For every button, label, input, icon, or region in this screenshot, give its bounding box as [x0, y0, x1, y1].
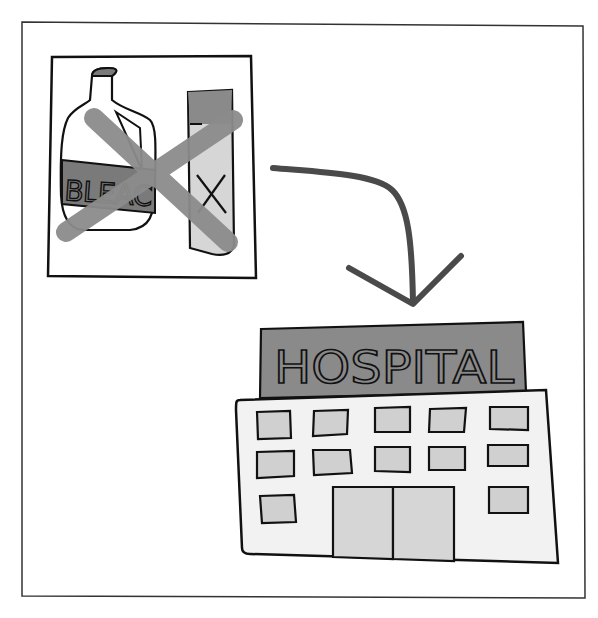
- hospital-sign-text: HOSPITAL: [274, 342, 515, 393]
- illustration-canvas: BLEAC: [0, 0, 598, 618]
- hospital-doors: [333, 487, 454, 561]
- hospital-door-left: [333, 487, 393, 559]
- hospital-building-icon: HOSPITAL: [236, 322, 558, 563]
- hospital-door-right: [393, 487, 454, 561]
- cleaning-products-panel: BLEAC: [48, 56, 256, 278]
